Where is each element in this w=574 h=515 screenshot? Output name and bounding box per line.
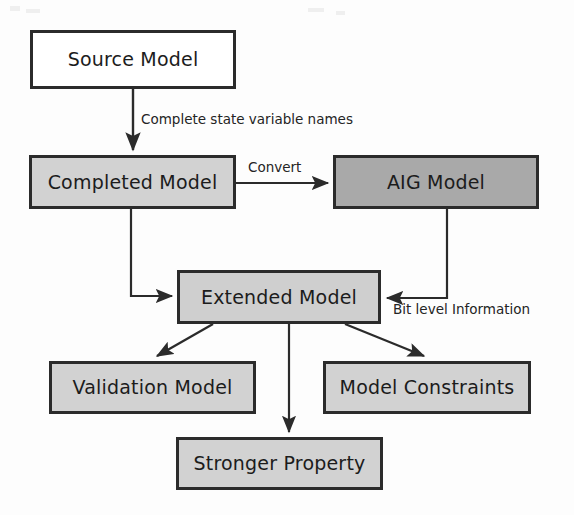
node-label-aig-model: AIG Model — [387, 172, 485, 193]
node-label-model-constraints: Model Constraints — [340, 377, 515, 398]
edge-label-bit-level-information: Bit level Information — [393, 303, 530, 317]
node-source-model[interactable]: Source Model — [30, 30, 236, 89]
edge-label-convert: Convert — [248, 161, 301, 175]
node-aig-model[interactable]: AIG Model — [333, 155, 539, 209]
edge-completed-to-extended — [131, 209, 172, 296]
node-model-constraints[interactable]: Model Constraints — [323, 361, 531, 414]
scan-speckle — [10, 6, 20, 11]
scan-speckle — [26, 9, 40, 13]
node-label-source-model: Source Model — [68, 49, 199, 70]
node-completed-model[interactable]: Completed Model — [29, 155, 236, 209]
node-label-validation-model: Validation Model — [72, 377, 232, 398]
node-label-stronger-property: Stronger Property — [194, 453, 366, 474]
node-label-completed-model: Completed Model — [48, 172, 218, 193]
node-validation-model[interactable]: Validation Model — [49, 361, 256, 414]
edge-aig-to-extended — [387, 209, 447, 298]
node-extended-model[interactable]: Extended Model — [177, 270, 381, 324]
node-label-extended-model: Extended Model — [201, 287, 357, 308]
node-stronger-property[interactable]: Stronger Property — [176, 437, 383, 490]
diagram-canvas: Source Model Completed Model AIG Model E… — [0, 0, 574, 515]
scan-speckle — [308, 8, 324, 12]
edge-extended-to-constraints — [345, 324, 424, 356]
scan-speckle — [336, 11, 345, 15]
edge-extended-to-validation — [157, 324, 213, 356]
edge-label-complete-state-variable-names: Complete state variable names — [141, 113, 353, 127]
